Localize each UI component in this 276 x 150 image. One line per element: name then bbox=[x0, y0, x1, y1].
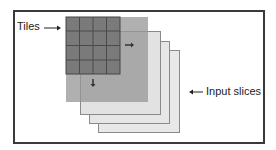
tiles-overlay bbox=[0, 0, 276, 150]
arrow-right-icon bbox=[125, 43, 134, 48]
tiles-pointer-arrow bbox=[44, 26, 61, 31]
tile-grid bbox=[66, 17, 120, 74]
input-slices-label: Input slices bbox=[206, 85, 261, 97]
tiles-label: Tiles bbox=[17, 20, 40, 32]
arrow-down-icon bbox=[91, 79, 96, 87]
arrow-left-icon bbox=[189, 90, 203, 95]
